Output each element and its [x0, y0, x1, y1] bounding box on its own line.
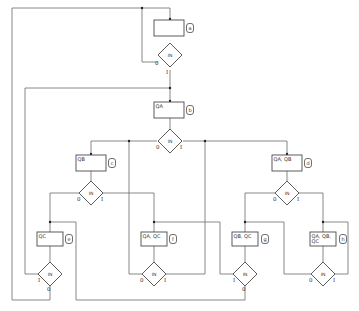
state-output: QA, QC: [143, 233, 161, 239]
state-tag-label: h: [341, 236, 344, 242]
branch-zero-label: 0: [309, 277, 313, 283]
state-f: QA, QCfIN0I: [140, 232, 177, 286]
branch-zero-label: 0: [140, 277, 144, 283]
branch-one-label: I: [38, 277, 40, 283]
decision-input-label: IN: [168, 53, 173, 58]
branch-one-label: I: [101, 196, 103, 202]
decision-input-label: IN: [89, 191, 94, 196]
state-g: QB, QCgIN0I: [232, 232, 269, 292]
state-output: QA, QB: [274, 156, 292, 162]
branch-one-label: I: [166, 69, 168, 75]
states: aIN0IQAbIN0IQBcIN0IQA, QBdIN0IQCeIN0IQA,…: [37, 20, 347, 292]
state-output: QA: [156, 103, 164, 109]
state-tag-label: e: [67, 236, 70, 242]
branch-one-label: I: [180, 144, 182, 150]
asm-chart: aIN0IQAbIN0IQBcIN0IQA, QBdIN0IQCeIN0IQA,…: [0, 0, 359, 311]
branch-zero-label: 0: [77, 196, 81, 202]
decision-input-label: IN: [243, 272, 248, 277]
branch-zero-label: 0: [242, 286, 246, 292]
state-tag-label: c: [111, 160, 114, 166]
state-tag-label: b: [188, 107, 191, 113]
state-output: QC: [312, 238, 320, 244]
branch-zero-label: 0: [273, 196, 277, 202]
branch-zero-label: 0: [156, 144, 160, 150]
state-b: QAbIN0I: [154, 102, 194, 153]
state-tag-label: a: [188, 25, 191, 31]
state-e: QCeIN0I: [37, 232, 73, 292]
decision-input-label: IN: [152, 272, 157, 277]
state-c: QBcIN0I: [76, 155, 116, 205]
decision-input-label: IN: [321, 272, 326, 277]
decision-input-label: IN: [285, 191, 290, 196]
state-output: QC: [39, 233, 47, 239]
state-d: QA, QBdIN0I: [272, 155, 312, 205]
branch-one-label: I: [333, 277, 335, 283]
state-tag-label: d: [306, 160, 309, 166]
branch-one-label: I: [297, 196, 299, 202]
branch-one-label: I: [164, 277, 166, 283]
branch-one-label: I: [233, 277, 235, 283]
state-tag-label: g: [263, 236, 266, 243]
state-box: [154, 20, 184, 36]
state-a: aIN0I: [154, 20, 194, 75]
decision-input-label: IN: [168, 139, 173, 144]
diagram-canvas: aIN0IQAbIN0IQBcIN0IQA, QBdIN0IQCeIN0IQA,…: [0, 0, 359, 311]
state-h: QA, QB,QChIN0I: [309, 232, 347, 286]
branch-zero-label: 0: [155, 60, 159, 66]
branch-zero-label: 0: [47, 286, 51, 292]
state-output: QB, QC: [234, 233, 252, 239]
state-output: QB: [78, 156, 86, 162]
state-tag-label: f: [172, 236, 174, 242]
connector-lines: [12, 8, 348, 300]
decision-input-label: IN: [48, 272, 53, 277]
